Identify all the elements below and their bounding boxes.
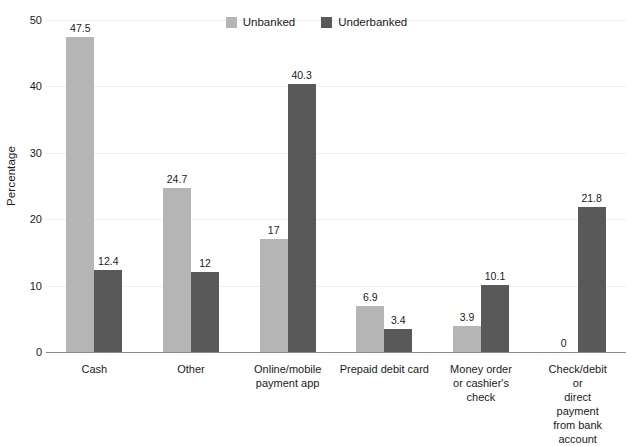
x-axis-group-label: Cash [81, 362, 107, 376]
bar-underbanked[interactable] [191, 272, 219, 352]
bar-underbanked[interactable] [384, 329, 412, 352]
gridline [46, 153, 626, 154]
bar-value-label: 40.3 [291, 69, 311, 81]
x-axis-line [46, 352, 626, 353]
legend-label: Unbanked [243, 16, 295, 28]
bar-unbanked[interactable] [356, 306, 384, 352]
legend-item[interactable]: Unbanked [226, 16, 295, 28]
legend-swatch-icon [321, 17, 332, 28]
x-axis-group-label: Other [177, 362, 205, 376]
bar-unbanked[interactable] [66, 37, 94, 352]
gridline [46, 286, 626, 287]
bar-value-label: 6.9 [363, 291, 378, 303]
y-axis-tick-labels: 01020304050 [0, 0, 42, 410]
chart-legend: UnbankedUnderbanked [0, 16, 633, 28]
legend-swatch-icon [226, 17, 237, 28]
bar-value-label: 3.4 [391, 314, 406, 326]
bar-value-label: 3.9 [460, 311, 475, 323]
y-axis-tick-label: 30 [8, 147, 42, 159]
x-axis-group-label: Check/debit or direct payment from bank … [549, 362, 607, 446]
plot-area: 47.512.424.7121740.36.93.43.910.1021.8 [46, 20, 626, 352]
bar-value-label: 12.4 [98, 255, 118, 267]
bar-value-label: 12 [199, 257, 211, 269]
bar-underbanked[interactable] [94, 270, 122, 352]
x-axis-group-label: Prepaid debit card [340, 362, 429, 376]
y-axis-tick-label: 0 [8, 346, 42, 358]
x-axis-group-label: Online/mobile payment app [254, 362, 321, 390]
bar-value-label: 10.1 [485, 270, 505, 282]
bar-unbanked[interactable] [260, 239, 288, 352]
gridline [46, 86, 626, 87]
y-axis-tick-label: 10 [8, 280, 42, 292]
gridline [46, 219, 626, 220]
bar-value-label: 21.8 [581, 192, 601, 204]
legend-label: Underbanked [338, 16, 407, 28]
bar-underbanked[interactable] [578, 207, 606, 352]
legend-item[interactable]: Underbanked [321, 16, 407, 28]
bar-unbanked[interactable] [453, 326, 481, 352]
bar-underbanked[interactable] [288, 84, 316, 352]
y-axis-tick-label: 20 [8, 213, 42, 225]
y-axis-tick-label: 40 [8, 80, 42, 92]
x-axis-group-label: Money order or cashier's check [450, 362, 512, 404]
bar-value-label: 17 [268, 224, 280, 236]
bar-value-label: 24.7 [167, 173, 187, 185]
bar-underbanked[interactable] [481, 285, 509, 352]
bar-unbanked[interactable] [163, 188, 191, 352]
bar-value-label: 0 [561, 337, 567, 349]
